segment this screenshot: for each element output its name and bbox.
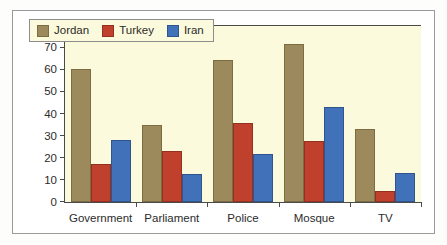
legend-swatch-icon — [167, 25, 179, 37]
bar-turkey-police — [233, 123, 253, 202]
bar-jordan-mosque — [284, 44, 304, 202]
bar-jordan-government — [71, 69, 91, 202]
bar-group — [136, 25, 207, 202]
bar-jordan-police — [213, 60, 233, 202]
legend-swatch-icon — [37, 25, 49, 37]
y-tick-label: 30 — [44, 128, 57, 144]
legend-item-iran[interactable]: Iran — [167, 24, 204, 37]
legend-swatch-icon — [102, 25, 114, 37]
legend-item-jordan[interactable]: Jordan — [37, 24, 89, 37]
bar-turkey-parliament — [162, 151, 182, 202]
y-tick-label: 60 — [44, 61, 57, 77]
x-axis-label: Police — [227, 211, 258, 225]
chart-legend: JordanTurkeyIran — [29, 19, 214, 42]
legend-label: Iran — [184, 24, 204, 37]
legend-item-turkey[interactable]: Turkey — [102, 24, 154, 37]
x-tick-mark — [207, 202, 208, 207]
y-tick-label: 20 — [44, 150, 57, 166]
bar-turkey-mosque — [304, 141, 324, 202]
y-tick-label: 0 — [51, 194, 57, 210]
bar-iran-police — [253, 154, 273, 202]
bar-iran-mosque — [324, 107, 344, 202]
bar-group — [65, 25, 136, 202]
x-axis-label: Parliament — [144, 211, 199, 225]
bars-layer — [65, 25, 421, 202]
bar-iran-tv — [395, 173, 415, 202]
bar-group — [207, 25, 278, 202]
x-axis-label: TV — [378, 211, 393, 225]
x-tick-mark — [421, 202, 422, 207]
y-tick-label: 40 — [44, 106, 57, 122]
bar-turkey-tv — [375, 191, 395, 202]
bar-iran-government — [111, 140, 131, 202]
figure-root: 01020304050607080 GovernmentParliamentPo… — [0, 0, 447, 245]
legend-label: Turkey — [119, 24, 154, 37]
x-tick-mark — [279, 202, 280, 207]
x-tick-mark — [136, 202, 137, 207]
bar-turkey-government — [91, 164, 111, 202]
chart-frame: 01020304050607080 GovernmentParliamentPo… — [12, 10, 435, 234]
x-axis-label: Mosque — [294, 211, 335, 225]
bar-jordan-parliament — [142, 125, 162, 202]
y-tick-label: 10 — [44, 172, 57, 188]
bar-group — [350, 25, 421, 202]
x-tick-mark — [350, 202, 351, 207]
bar-iran-parliament — [182, 174, 202, 202]
bar-jordan-tv — [355, 129, 375, 202]
plot-area: 01020304050607080 GovernmentParliamentPo… — [64, 25, 421, 203]
y-tick-label: 50 — [44, 83, 57, 99]
legend-label: Jordan — [54, 24, 89, 37]
x-axis-label: Government — [69, 211, 132, 225]
bar-group — [279, 25, 350, 202]
